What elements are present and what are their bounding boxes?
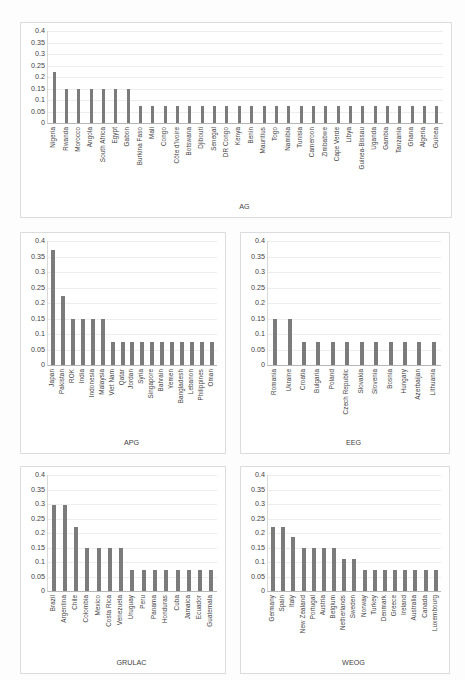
y-tick-label: 0.2 [35, 73, 45, 80]
bar [250, 106, 253, 123]
x-label-cell: Argentina [58, 593, 69, 659]
y-axis-apg: 00.050.10.150.20.250.30.350.4 [21, 233, 47, 451]
bar-cell [157, 241, 167, 365]
y-tick-label: 0.05 [31, 573, 45, 580]
x-tick-label: Benin [247, 127, 254, 144]
x-label-cell: Australia [409, 593, 419, 659]
bar [81, 319, 85, 365]
bar [85, 548, 89, 591]
bar [151, 106, 154, 123]
bar-cell [159, 31, 171, 123]
bar [97, 548, 101, 591]
x-tick-label: Romania [271, 369, 278, 395]
x-tick-label: Namibia [284, 127, 291, 151]
bar-cell [369, 31, 381, 123]
bar [389, 342, 393, 365]
bar-cell [412, 241, 426, 365]
bar [209, 570, 213, 591]
x-label-cell: Burkina Faso [133, 125, 145, 203]
x-tick-label: Guinea [433, 127, 440, 148]
x-tick-label: Côte d'Ivoire [173, 127, 180, 163]
x-tick-label: Egypt [112, 127, 119, 144]
x-tick-label: Netherlands [340, 595, 347, 630]
bar [363, 570, 367, 591]
x-tick-label: Guatemala [207, 595, 214, 627]
bar-cell [418, 31, 430, 123]
bar-cell [177, 241, 187, 365]
y-axis-eeg: 00.050.10.150.20.250.30.350.4 [241, 233, 267, 451]
bar-cell [319, 475, 329, 591]
x-axis-title-eeg: EEG [267, 438, 440, 447]
x-tick-label: Indonesia [88, 369, 95, 397]
bar-cell [370, 475, 380, 591]
bar-cell [110, 31, 122, 123]
y-tick-label: 0.35 [31, 253, 45, 260]
bar [71, 319, 75, 365]
bar [263, 106, 266, 123]
x-tick-label: Philippines [198, 369, 205, 401]
x-axis-labels-apg: JapanPakistanROKIndiaIndonesiaMalaysiaVi… [47, 367, 216, 439]
y-tick-label: 0.35 [251, 486, 265, 493]
x-tick-label: Denmark [381, 595, 388, 621]
x-tick-label: Guinea-Bissau [358, 127, 365, 170]
x-tick-label: Germany [269, 595, 276, 622]
y-tick-label: 0.05 [251, 346, 265, 353]
y-tick-label: 0.05 [31, 108, 45, 115]
x-label-cell: Bosnia [382, 367, 396, 439]
x-label-cell: Philippines [196, 367, 206, 439]
bar [238, 106, 241, 123]
bar [111, 342, 115, 365]
x-label-cell: Mexico [92, 593, 103, 659]
x-axis-labels-weog: GermanySpainItalyNew ZealandPortugalAust… [267, 593, 440, 659]
x-label-cell: Angola [84, 125, 96, 203]
x-tick-label: New Zealand [299, 595, 306, 633]
bar-cell [268, 241, 282, 365]
bar-cell [138, 475, 149, 591]
x-tick-label: Gambia [383, 127, 390, 150]
bar-cell [326, 241, 340, 365]
bar [90, 89, 93, 123]
bar [176, 570, 180, 591]
x-label-cell: Botswana [183, 125, 195, 203]
x-tick-label: Senegal [210, 127, 217, 151]
x-label-cell: South Africa [96, 125, 108, 203]
bar-cell [406, 31, 418, 123]
chart-apg: 00.050.10.150.20.250.30.350.4JapanPakist… [21, 233, 225, 453]
bar [142, 570, 146, 591]
bar [53, 72, 56, 123]
plot-area-apg [47, 241, 217, 366]
bar-cell [295, 31, 307, 123]
x-label-cell: Germany [267, 593, 277, 659]
bar-cell [122, 31, 134, 123]
bar [403, 342, 407, 365]
x-label-cell: Gabon [121, 125, 133, 203]
x-label-cell: Morocco [72, 125, 84, 203]
x-label-cell: Bahrain [156, 367, 166, 439]
bar-cell [97, 31, 109, 123]
bar [160, 342, 164, 365]
bar [403, 570, 407, 591]
x-tick-label: Cape Verde [334, 127, 341, 161]
x-label-cell: Lebanon [186, 367, 196, 439]
bar [127, 89, 130, 123]
x-label-cell: Ghana [405, 125, 417, 203]
x-label-cell: Honduras [160, 593, 171, 659]
bar-cell [357, 31, 369, 123]
x-label-cell: Guinea-Bissau [356, 125, 368, 203]
x-tick-label: India [78, 369, 85, 383]
bar-series [268, 241, 441, 365]
bar [337, 106, 340, 123]
bar [291, 537, 295, 591]
bar [349, 106, 352, 123]
x-tick-label: Malaysia [98, 369, 105, 395]
bar-cell [355, 241, 369, 365]
x-tick-label: Czech Republic [343, 369, 350, 415]
chart-panel-ag: 00.050.10.150.20.250.30.350.4NigeriaRwan… [20, 22, 452, 218]
x-label-cell: Japan [47, 367, 57, 439]
x-label-cell: Greece [389, 593, 399, 659]
x-label-cell: Bulgaria [310, 367, 324, 439]
bar-cell [149, 475, 160, 591]
x-tick-label: Jamaica [185, 595, 192, 619]
bar [322, 548, 326, 591]
y-tick-label: 0.2 [35, 529, 45, 536]
